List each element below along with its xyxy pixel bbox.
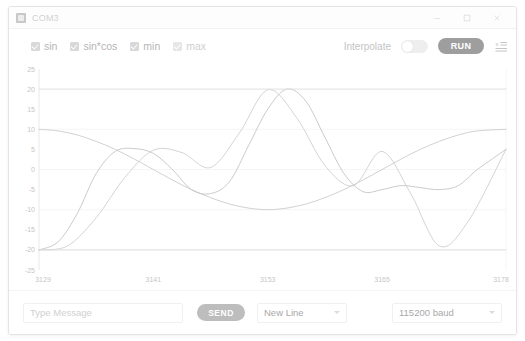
series-toggle-max[interactable]: max: [173, 40, 206, 52]
window-title: COM3: [32, 13, 59, 23]
chart-y-axis-ticks: 2520151050-5-10-15-20-25: [25, 66, 35, 274]
serial-monitor-window: COM3 sin sin*cos min: [8, 6, 517, 335]
run-button[interactable]: RUN: [438, 38, 484, 54]
series-label-min: min: [143, 40, 160, 52]
svg-text:3165: 3165: [374, 276, 390, 283]
svg-text:-15: -15: [25, 226, 35, 233]
svg-text:25: 25: [27, 66, 35, 73]
send-button[interactable]: SEND: [197, 304, 245, 321]
chart-area: 2520151050-5-10-15-20-25 312931413153316…: [15, 63, 510, 290]
chart-gridlines: [39, 69, 506, 270]
svg-text:-25: -25: [25, 267, 35, 274]
line-ending-value: New Line: [264, 307, 304, 318]
baud-rate-value: 115200 baud: [399, 307, 454, 318]
title-bar: COM3: [9, 7, 516, 29]
svg-text:10: 10: [27, 126, 35, 133]
app-icon: [16, 13, 26, 23]
line-chart[interactable]: 2520151050-5-10-15-20-25 312931413153316…: [15, 63, 512, 290]
svg-text:3178: 3178: [493, 276, 509, 283]
svg-text:3141: 3141: [146, 276, 162, 283]
chart-x-axis-ticks: 31293141315331653178: [35, 276, 509, 283]
svg-text:-10: -10: [25, 206, 35, 213]
toolbar-right-group: Interpolate RUN x: [344, 38, 508, 54]
svg-text:3153: 3153: [260, 276, 276, 283]
checkbox-sin[interactable]: [31, 42, 40, 51]
chart-toolbar: sin sin*cos min max Interpolate RUN: [9, 29, 516, 63]
message-input[interactable]: [23, 303, 183, 323]
window-controls: [422, 7, 512, 28]
minimize-button[interactable]: [422, 7, 452, 29]
series-toggle-sincos[interactable]: sin*cos: [70, 40, 117, 52]
series-label-sin: sin: [44, 40, 57, 52]
svg-text:-5: -5: [29, 186, 35, 193]
svg-text:15: 15: [27, 106, 35, 113]
maximize-button[interactable]: [452, 7, 482, 29]
baud-rate-dropdown[interactable]: 115200 baud: [392, 303, 502, 323]
checkbox-sincos[interactable]: [70, 42, 79, 51]
checkbox-min[interactable]: [130, 42, 139, 51]
interpolate-toggle[interactable]: [401, 40, 428, 53]
svg-text:x: x: [495, 41, 498, 47]
chevron-down-icon: [334, 311, 340, 314]
series-label-sincos: sin*cos: [83, 40, 117, 52]
series-label-max: max: [186, 40, 206, 52]
serial-input-bar: SEND New Line 115200 baud: [9, 290, 516, 334]
line-ending-dropdown[interactable]: New Line: [257, 303, 347, 323]
interpolate-toggle-knob: [402, 41, 413, 52]
axis-legend-icon[interactable]: x: [494, 39, 508, 53]
svg-text:-20: -20: [25, 246, 35, 253]
interpolate-label: Interpolate: [344, 41, 391, 52]
svg-text:20: 20: [27, 86, 35, 93]
series-toggle-sin[interactable]: sin: [31, 40, 57, 52]
svg-text:5: 5: [31, 146, 35, 153]
close-button[interactable]: [482, 7, 512, 29]
svg-text:3129: 3129: [35, 276, 51, 283]
chevron-down-icon: [489, 311, 495, 314]
series-toggle-group: sin sin*cos min max: [31, 40, 206, 52]
svg-text:0: 0: [31, 166, 35, 173]
series-toggle-min[interactable]: min: [130, 40, 160, 52]
checkbox-max[interactable]: [173, 42, 182, 51]
